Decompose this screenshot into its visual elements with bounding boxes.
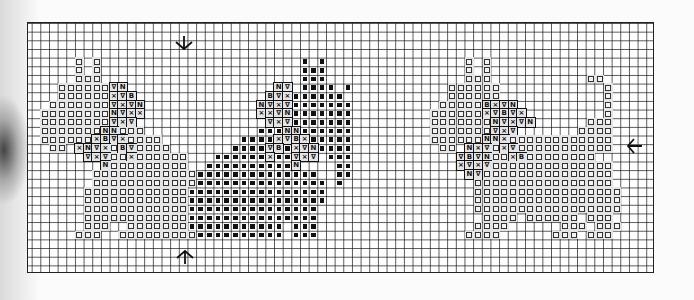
stitch-open-square [543,179,552,188]
stitch-open-square [92,118,101,127]
stitch-open-square [84,127,93,136]
stitch-filled-square [309,75,318,84]
stitch-filled-square [300,213,309,222]
stitch-open-square [561,144,570,153]
stitch-n-symbol: N [292,161,301,170]
stitch-filled-square [240,231,249,240]
stitch-filled-square [318,179,327,188]
stitch-open-square [465,135,474,144]
stitch-filled-square [309,179,318,188]
left-arrow-icon [626,137,644,155]
stitch-open-square [535,213,544,222]
stitch-nabla: ∇ [101,153,110,162]
stitch-open-square [75,118,84,127]
stitch-open-square [561,161,570,170]
stitch-open-square [483,179,492,188]
stitch-open-square [587,135,596,144]
stitch-open-square [595,75,604,84]
stitch-nabla: ∇ [274,92,283,101]
stitch-open-square [188,170,197,179]
stitch-filled-square [248,135,257,144]
stitch-open-square [101,92,110,101]
stitch-open-square [517,161,526,170]
stitch-open-square [569,144,578,153]
stitch-open-square [153,187,162,196]
stitch-filled-square [309,83,318,92]
stitch-cross: × [118,118,127,127]
stitch-filled-square [257,161,266,170]
stitch-open-square [595,222,604,231]
stitch-filled-square [292,187,301,196]
stitch-filled-square [257,187,266,196]
stitch-filled-square [292,205,301,214]
stitch-filled-square [188,196,197,205]
stitch-open-square [604,213,613,222]
stitch-open-square [101,118,110,127]
stitch-open-square [92,66,101,75]
stitch-filled-square [274,153,283,162]
stitch-filled-square [222,231,231,240]
stitch-open-square [179,205,188,214]
stitch-open-square [92,170,101,179]
stitch-open-square [561,135,570,144]
stitch-open-square [58,109,67,118]
stitch-filled-square [326,144,335,153]
stitch-open-square [535,161,544,170]
stitch-open-square [474,109,483,118]
stitch-filled-square [292,179,301,188]
stitch-open-square [457,92,466,101]
stitch-nabla: ∇ [283,135,292,144]
stitch-open-square [483,83,492,92]
stitch-filled-square [335,161,344,170]
stitch-filled-square [292,109,301,118]
stitch-filled-square [205,196,214,205]
stitch-open-square [110,144,119,153]
stitch-open-square [483,92,492,101]
stitch-open-square [84,213,93,222]
stitch-open-square [118,205,127,214]
stitch-n-symbol: N [483,135,492,144]
stitch-filled-square [248,205,257,214]
stitch-filled-square [274,231,283,240]
stitch-open-square [543,153,552,162]
stitch-open-square [153,179,162,188]
stitch-nabla: ∇ [300,144,309,153]
stitch-open-square [75,109,84,118]
stitch-open-square [535,135,544,144]
stitch-open-square [439,127,448,136]
stitch-filled-square [257,153,266,162]
stitch-filled-square [326,109,335,118]
stitch-open-square [509,187,518,196]
stitch-filled-square [309,213,318,222]
stitch-open-square [75,83,84,92]
stitch-open-square [110,170,119,179]
stitch-open-square [84,83,93,92]
stitch-open-square [526,144,535,153]
stitch-filled-square [292,213,301,222]
stitch-open-square [118,153,127,162]
stitch-open-square [66,109,75,118]
stitch-b-symbol: B [483,101,492,110]
stitch-open-square [75,135,84,144]
stitch-open-square [110,205,119,214]
stitch-b-symbol: B [127,92,136,101]
stitch-nabla: ∇ [266,101,275,110]
stitch-open-square [535,187,544,196]
stitch-filled-square [240,161,249,170]
stitch-filled-square [257,135,266,144]
stitch-open-square [595,196,604,205]
stitch-open-square [49,127,58,136]
stitch-filled-square [205,231,214,240]
stitch-filled-square [231,153,240,162]
stitch-open-square [162,187,171,196]
stitch-cross: × [127,153,136,162]
stitch-nabla: ∇ [283,118,292,127]
stitch-filled-square [248,144,257,153]
stitch-cross: × [110,92,119,101]
stitch-open-square [543,144,552,153]
stitch-open-square [101,187,110,196]
stitch-cross: × [92,153,101,162]
stitch-filled-square [214,179,223,188]
stitch-filled-square [292,92,301,101]
stitch-open-square [535,170,544,179]
